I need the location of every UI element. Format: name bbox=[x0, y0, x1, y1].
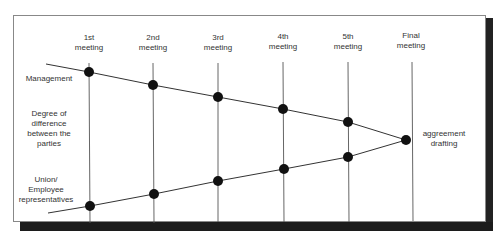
management-dot-1 bbox=[84, 67, 94, 77]
meeting-label-2: 2nd meeting bbox=[128, 33, 178, 53]
union-dot-3 bbox=[213, 176, 223, 186]
management-dot-4 bbox=[278, 104, 288, 114]
meeting-line-4 bbox=[283, 62, 284, 222]
meeting-label-4: 4th meeting bbox=[258, 32, 308, 52]
management-dot-2 bbox=[148, 80, 158, 90]
meeting-dots bbox=[84, 67, 411, 211]
meeting-line-5 bbox=[348, 62, 349, 222]
management-dot-5 bbox=[343, 117, 353, 127]
meeting-label-final: Final meeting bbox=[386, 31, 436, 51]
union-dot-4 bbox=[279, 164, 289, 174]
management-label: Management bbox=[13, 74, 85, 84]
difference-label: Degree of difference between the parties bbox=[13, 109, 85, 149]
management-line bbox=[46, 64, 406, 140]
meeting-line-final bbox=[412, 62, 413, 221]
meeting-label-1: 1st meeting bbox=[64, 33, 114, 53]
union-label: Union/ Employee representatives bbox=[10, 175, 82, 205]
meeting-line-1 bbox=[89, 63, 90, 223]
meeting-label-5: 5th meeting bbox=[323, 32, 373, 52]
meeting-label-3: 3rd meeting bbox=[193, 33, 243, 53]
agreement-drafting-label: aggreement drafting bbox=[414, 129, 474, 149]
agreement-dot bbox=[401, 135, 411, 145]
union-line bbox=[48, 140, 406, 213]
management-dot-3 bbox=[213, 92, 223, 102]
meeting-lines bbox=[89, 62, 413, 223]
union-dot-5 bbox=[343, 152, 353, 162]
union-dot-1 bbox=[85, 201, 95, 211]
union-dot-2 bbox=[149, 189, 159, 199]
